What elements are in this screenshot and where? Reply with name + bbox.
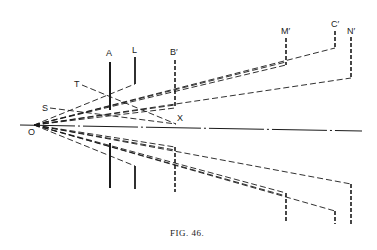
label-T: T (74, 79, 80, 89)
label-B-prime: B′ (170, 47, 178, 57)
figure-46-diagram: O A L B′ M′ C′ N′ T S X FIG. 46. (0, 0, 377, 250)
label-M-prime: M′ (281, 26, 290, 36)
label-X: X (177, 113, 183, 123)
upper-rays (34, 48, 351, 125)
figure-caption: FIG. 46. (170, 228, 204, 238)
label-A: A (106, 48, 112, 58)
label-S: S (42, 103, 48, 113)
label-C-prime: C′ (331, 19, 339, 29)
label-O: O (28, 127, 35, 137)
ray-T-X (82, 85, 176, 124)
axis-line (20, 125, 362, 131)
lower-rays (34, 125, 351, 211)
label-L: L (132, 45, 137, 55)
label-N-prime: N′ (347, 26, 355, 36)
